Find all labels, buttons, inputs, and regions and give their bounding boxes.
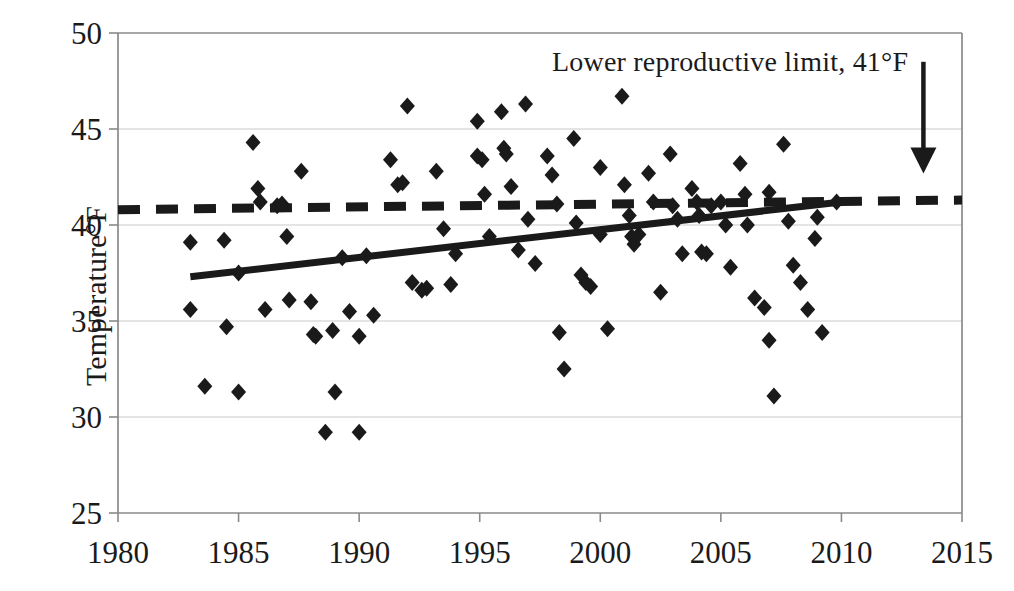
data-point (436, 220, 451, 237)
data-point (545, 167, 560, 184)
data-point (217, 232, 232, 249)
data-point (197, 378, 212, 395)
data-point (518, 96, 533, 113)
data-point (740, 217, 755, 234)
data-point (641, 165, 656, 182)
data-point (352, 328, 367, 345)
data-point (511, 241, 526, 258)
data-point (557, 361, 572, 378)
data-point (762, 332, 777, 349)
data-point (246, 134, 261, 151)
data-point (443, 276, 458, 293)
data-point (600, 320, 615, 337)
data-point (477, 186, 492, 203)
data-point (303, 293, 318, 310)
data-point (733, 155, 748, 172)
data-point (352, 424, 367, 441)
data-point (400, 97, 415, 114)
data-point (318, 424, 333, 441)
data-point (793, 274, 808, 291)
data-point (342, 303, 357, 320)
data-point (829, 193, 844, 210)
data-point (617, 176, 632, 193)
data-point (470, 113, 485, 130)
data-point (781, 213, 796, 230)
data-point (549, 195, 564, 212)
data-point (766, 387, 781, 404)
data-point (614, 88, 629, 105)
data-point (325, 322, 340, 339)
data-point (279, 228, 294, 245)
data-point (776, 136, 791, 153)
data-point (335, 249, 350, 266)
data-point (723, 259, 738, 276)
data-point (231, 384, 246, 401)
data-point (675, 245, 690, 262)
limit-arrow-icon (910, 62, 936, 174)
data-point (540, 147, 555, 164)
data-point (800, 301, 815, 318)
data-point (566, 130, 581, 147)
data-point (757, 299, 772, 316)
data-point (786, 257, 801, 274)
data-point (653, 284, 668, 301)
gridlines-group (118, 33, 962, 417)
data-point (294, 163, 309, 180)
data-point (810, 209, 825, 226)
data-point (663, 145, 678, 162)
data-point (250, 180, 265, 197)
data-point (282, 291, 297, 308)
data-point (183, 301, 198, 318)
data-point (807, 230, 822, 247)
data-point (528, 255, 543, 272)
data-point (383, 151, 398, 168)
data-point (747, 289, 762, 306)
data-point (258, 301, 273, 318)
data-point (253, 193, 268, 210)
data-point (429, 163, 444, 180)
data-point (494, 103, 509, 120)
plot-canvas (0, 0, 1014, 591)
data-point (328, 384, 343, 401)
temperature-scatter-figure: Temperature°F Lower reproductive limit, … (0, 0, 1014, 591)
data-point (552, 324, 567, 341)
data-point (504, 178, 519, 195)
data-point (593, 159, 608, 176)
data-point (183, 234, 198, 251)
data-point (622, 207, 637, 224)
arrow-head (910, 147, 936, 173)
data-point (359, 247, 374, 264)
data-point (231, 265, 246, 282)
data-point (815, 324, 830, 341)
